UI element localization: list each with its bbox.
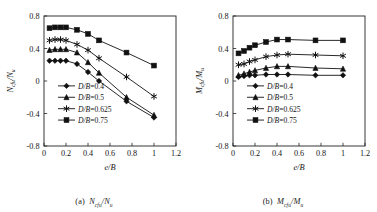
- x-axis-tick-label: 0.6: [105, 149, 115, 158]
- series-marker: [64, 25, 69, 30]
- y-axis-tick-label: -0.4: [27, 110, 40, 119]
- legend-entry: D/B=0.5: [58, 93, 104, 102]
- series-marker: [313, 38, 318, 43]
- legend-entry: D/B=0.5: [247, 93, 293, 102]
- y-axis-tick-label: 0.4: [29, 45, 39, 54]
- x-axis-tick-label: 0.4: [272, 149, 282, 158]
- series-marker: [85, 47, 91, 54]
- series-marker: [47, 26, 52, 31]
- x-axis-tick-label: 0.8: [316, 149, 326, 158]
- y-axis-tick-label: 0.4: [218, 45, 228, 54]
- legend-label: D/B=0.625: [77, 105, 112, 114]
- legend-label: D/B=0.4: [77, 82, 104, 91]
- panel-b-caption-num-sub: cfu: [284, 202, 291, 208]
- legend-label: D/B=0.5: [266, 93, 293, 102]
- x-axis-title: e/B: [293, 163, 304, 172]
- series-marker: [247, 58, 253, 65]
- series-marker: [124, 74, 130, 81]
- y-axis-title: Mcfu/Mu: [195, 68, 205, 95]
- figure-container: 00.20.40.60.811.2-0.8-0.400.40.8Ncfu/Nue…: [0, 0, 377, 212]
- series-marker: [340, 73, 345, 78]
- y-axis-tick-label: 0.8: [218, 12, 228, 21]
- plot-frame: [233, 16, 365, 146]
- x-axis-tick-label: 0.4: [83, 149, 93, 158]
- legend-label: D/B=0.625: [266, 105, 301, 114]
- panel-b-caption-numerator: M: [277, 197, 284, 206]
- legend-label: D/B=0.75: [266, 116, 297, 125]
- legend-marker: [64, 83, 69, 88]
- y-axis-tick-label: -0.8: [27, 142, 40, 151]
- legend-entry: D/B=0.625: [58, 105, 112, 114]
- legend-label: D/B=0.5: [77, 93, 104, 102]
- series-marker: [286, 37, 291, 42]
- svg-text:Ncfu/Nu: Ncfu/Nu: [6, 69, 16, 93]
- y-axis-tick-label: -0.4: [216, 110, 229, 119]
- series-marker: [96, 55, 102, 62]
- series-marker: [53, 25, 58, 30]
- y-axis-title: Ncfu/Nu: [6, 69, 16, 93]
- legend-entry: D/B=0.4: [58, 82, 104, 91]
- series-marker: [285, 72, 290, 77]
- series-marker: [242, 49, 247, 54]
- series-marker: [47, 58, 52, 63]
- series-marker: [75, 27, 80, 32]
- data-series: [236, 51, 346, 68]
- svg-text:Mcfu/Mu: Mcfu/Mu: [195, 68, 205, 95]
- series-marker: [236, 51, 241, 56]
- legend-entry: D/B=0.75: [247, 116, 297, 125]
- x-axis-tick-label: 0.2: [61, 149, 71, 158]
- panel-b-caption-prefix: (b): [263, 197, 273, 206]
- plot-area-a: 00.20.40.60.811.2-0.8-0.400.40.8Ncfu/Nue…: [0, 0, 188, 186]
- legend-label: D/B=0.75: [77, 116, 108, 125]
- panel-b-caption-den-sub: u: [300, 202, 303, 208]
- series-marker: [151, 112, 156, 117]
- panel-a-caption-num-sub: cfu: [95, 202, 102, 208]
- series-marker: [63, 58, 68, 63]
- legend-marker: [253, 83, 258, 88]
- series-marker: [151, 93, 157, 100]
- x-axis-tick-label: 0.6: [294, 149, 304, 158]
- chart-panel-a: 00.20.40.60.811.2-0.8-0.400.40.8Ncfu/Nue…: [0, 0, 188, 212]
- y-axis-tick-label: 0: [35, 77, 39, 86]
- plot-frame: [44, 16, 176, 146]
- series-marker: [74, 41, 80, 48]
- series-marker: [341, 38, 346, 43]
- x-axis-tick-label: 1.2: [171, 149, 181, 158]
- series-marker: [253, 43, 258, 48]
- series-marker: [124, 50, 129, 55]
- series-marker: [58, 58, 63, 63]
- series-marker: [247, 45, 252, 50]
- series-marker: [152, 63, 157, 68]
- panel-a-caption-den-sub: u: [110, 202, 113, 208]
- legend-entry: D/B=0.75: [58, 116, 108, 125]
- series-marker: [274, 72, 279, 77]
- chart-svg-b: 00.20.40.60.811.2-0.8-0.400.40.8Mcfu/Mue…: [189, 0, 377, 186]
- x-axis-tick-label: 0.2: [250, 149, 260, 158]
- series-marker: [52, 58, 57, 63]
- series-marker: [264, 40, 269, 45]
- legend-entry: D/B=0.625: [247, 105, 301, 114]
- x-axis-tick-label: 1: [152, 149, 156, 158]
- x-axis-tick-label: 0: [231, 149, 235, 158]
- chart-panel-b: 00.20.40.60.811.2-0.8-0.400.40.8Mcfu/Mue…: [189, 0, 377, 212]
- x-axis-tick-label: 0: [42, 149, 46, 158]
- legend-label: D/B=0.4: [266, 82, 293, 91]
- series-marker: [252, 73, 257, 78]
- x-axis-title: e/B: [104, 163, 115, 172]
- plot-area-b: 00.20.40.60.811.2-0.8-0.400.40.8Mcfu/Mue…: [189, 0, 377, 186]
- x-axis-tick-label: 0.8: [127, 149, 137, 158]
- series-marker: [86, 31, 91, 36]
- y-axis-tick-label: 0.8: [29, 12, 39, 21]
- series-marker: [252, 57, 258, 64]
- chart-svg-a: 00.20.40.60.811.2-0.8-0.400.40.8Ncfu/Nue…: [0, 0, 188, 186]
- series-marker: [263, 72, 268, 77]
- panel-a-caption-prefix: (a): [75, 197, 85, 206]
- x-axis-tick-label: 1.2: [360, 149, 370, 158]
- legend-entry: D/B=0.4: [247, 82, 293, 91]
- series-marker: [97, 38, 102, 43]
- series-marker: [313, 73, 318, 78]
- series-marker: [275, 37, 280, 42]
- series-marker: [58, 25, 63, 30]
- panel-b-caption: (b) Mcfu/Mu: [189, 197, 377, 208]
- panel-a-caption: (a) Ncfu/Nu: [0, 197, 188, 208]
